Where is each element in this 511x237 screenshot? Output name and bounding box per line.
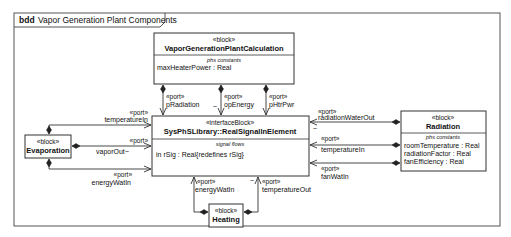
property-max-heater-power: maxHeaterPower : Real xyxy=(157,64,232,71)
block-vapor-generation-plant-calculation[interactable]: «block» VaporGenerationPlantCalculation … xyxy=(154,33,294,84)
port-stereotype: «port» xyxy=(114,171,133,179)
property-radiation-factor: radiationFactor : Real xyxy=(404,150,471,157)
conjugate-mark: ~ xyxy=(213,103,217,110)
port-label: pRadiation xyxy=(166,101,200,109)
property-rsig: in rSig : Real{redefines rSig} xyxy=(156,151,245,159)
port-label: energyWatIn xyxy=(195,186,235,194)
port-stereotype: «port» xyxy=(321,165,340,173)
frame-kind: bdd xyxy=(19,15,35,25)
block-name: Evaporation xyxy=(26,146,70,155)
block-evaporation[interactable]: «block» Evaporation xyxy=(25,135,71,158)
stereotype-label: «interfaceBlock» xyxy=(206,119,254,126)
conjugate-mark: ~ xyxy=(125,148,129,155)
block-name: Radiation xyxy=(426,122,461,131)
port-stereotype: «port» xyxy=(130,137,149,145)
port-stereotype: «port» xyxy=(166,93,185,101)
port-stereotype: «port» xyxy=(321,135,340,143)
bdd-diagram: bdd Vapor Generation Plant Components «b… xyxy=(0,0,511,237)
port-stereotype: «port» xyxy=(262,178,281,186)
port-label: vaporOut xyxy=(96,148,125,156)
block-name: Heating xyxy=(212,215,240,224)
stereotype-label: «block» xyxy=(213,36,236,43)
port-label: temperatureIn xyxy=(104,116,148,124)
stereotype-label: «block» xyxy=(215,207,238,214)
port-label: temperatureOut xyxy=(262,186,311,194)
block-heating[interactable]: «block» Heating xyxy=(209,204,243,227)
port-label: energyWatIn xyxy=(92,179,132,187)
port-label: fanWatIn xyxy=(321,173,349,180)
property-room-temperature: roomTemperature : Real xyxy=(404,142,480,150)
port-stereotype: «port» xyxy=(224,93,243,101)
port-label: radiationWaterOut xyxy=(318,114,375,121)
frame-title: Vapor Generation Plant Components xyxy=(38,15,177,25)
compartment-label: signal flows xyxy=(216,141,245,147)
conjugate-mark: ~ xyxy=(313,125,317,132)
port-label: opEnergy xyxy=(224,101,254,109)
port-stereotype: «port» xyxy=(269,93,288,101)
property-fan-efficiency: fanEfficiency : Real xyxy=(404,158,464,166)
compartment-label: phs constants xyxy=(206,57,241,63)
stereotype-label: «block» xyxy=(37,138,60,145)
block-radiation[interactable]: «block» Radiation phs constants roomTemp… xyxy=(401,111,486,171)
block-real-signal-in-element[interactable]: «interfaceBlock» SysPhSLibrary::RealSign… xyxy=(152,116,309,176)
conjugate-mark: ~ xyxy=(250,177,254,184)
port-label: temperatureIn xyxy=(321,146,365,154)
compartment-label: phs constants xyxy=(425,134,460,140)
stereotype-label: «block» xyxy=(432,114,455,121)
port-stereotype: «port» xyxy=(197,178,216,186)
block-name: VaporGenerationPlantCalculation xyxy=(164,44,284,53)
block-name: SysPhSLibrary::RealSignalInElement xyxy=(164,127,297,136)
port-label: pHtrPwr xyxy=(269,101,295,109)
